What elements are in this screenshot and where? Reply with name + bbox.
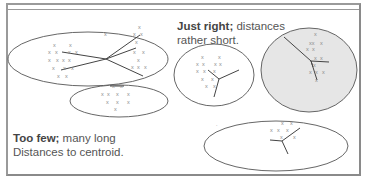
svg-text:x: x [203,68,206,74]
svg-text:x: x [71,65,74,71]
caption-just-right: Just right; distances rather short. [177,19,285,47]
svg-text:x: x [280,134,283,140]
svg-text:x: x [127,91,130,97]
svg-text:x: x [48,49,51,55]
svg-text:x: x [75,49,78,55]
svg-text:x: x [312,46,315,52]
svg-text:x: x [277,127,280,133]
svg-text:x: x [309,69,312,75]
svg-text:x: x [65,73,68,79]
svg-text:x: x [137,64,140,70]
svg-text:x: x [315,77,318,83]
svg-text:x: x [112,83,115,89]
caption-too-few-line1: many long [59,132,115,144]
svg-text:x: x [120,83,123,89]
svg-text:x: x [293,134,296,140]
svg-text:x: x [131,64,134,70]
svg-text:x: x [68,49,71,55]
caption-just-right-line1: distances [233,20,285,32]
svg-text:x: x [140,31,143,37]
cluster-bottom-right: x x x x x x x . [204,120,348,171]
svg-text:x: x [62,57,65,63]
svg-text:x: x [213,83,216,89]
caption-just-right-line2: rather short. [177,34,239,46]
svg-text:x: x [107,91,110,97]
caption-too-few-line2: Distances to centroid. [13,146,124,158]
svg-text:x: x [137,57,140,63]
svg-text:x: x [52,65,55,71]
svg-text:x: x [127,99,130,105]
svg-text:x: x [101,91,104,97]
svg-text:x: x [290,120,293,126]
cluster-middle: x x x x x x x x x x x x x [174,44,254,106]
svg-text:x: x [138,24,141,30]
svg-text:x: x [320,55,323,61]
svg-text:x: x [116,99,119,105]
large-cluster-top-left: x x x x x x x x x x x x x x x x x x x x … [8,24,168,86]
svg-text:x: x [214,61,217,67]
svg-text:.: . [216,121,218,127]
svg-text:x: x [201,76,204,82]
caption-just-right-bold: Just right; [177,20,233,32]
small-cluster-bottom-left: x x x x x x x x x x [70,83,168,117]
svg-text:x: x [63,65,66,71]
svg-text:x: x [106,99,109,105]
caption-too-few-bold: Too few; [13,132,59,144]
svg-text:x: x [281,120,284,126]
svg-text:x: x [219,61,222,67]
svg-text:x: x [68,57,71,63]
svg-text:x: x [135,39,138,45]
svg-text:x: x [201,54,204,60]
svg-text:x: x [133,31,136,37]
svg-text:x: x [55,49,58,55]
svg-text:x: x [213,68,216,74]
caption-too-few: Too few; many long Distances to centroid… [13,131,124,159]
svg-text:x: x [144,64,147,70]
svg-text:x: x [313,62,316,68]
svg-text:x: x [69,42,72,48]
svg-text:x: x [196,61,199,67]
svg-text:x: x [322,69,325,75]
svg-text:x: x [56,57,59,63]
svg-text:x: x [53,42,56,48]
svg-text:x: x [306,46,309,52]
svg-text:x: x [142,49,145,55]
svg-text:x: x [211,76,214,82]
svg-text:x: x [315,69,318,75]
svg-text:x: x [286,127,289,133]
svg-text:x: x [205,83,208,89]
svg-text:x: x [314,55,317,61]
svg-text:x: x [57,73,60,79]
svg-text:x: x [104,31,107,37]
svg-text:x: x [270,127,273,133]
svg-text:x: x [218,54,221,60]
svg-text:x: x [202,61,205,67]
svg-text:x: x [48,57,51,63]
svg-text:x: x [133,49,136,55]
svg-text:x: x [314,31,317,37]
svg-text:x: x [196,68,199,74]
svg-text:x: x [320,40,323,46]
svg-text:x: x [114,106,117,112]
svg-text:x: x [116,91,119,97]
